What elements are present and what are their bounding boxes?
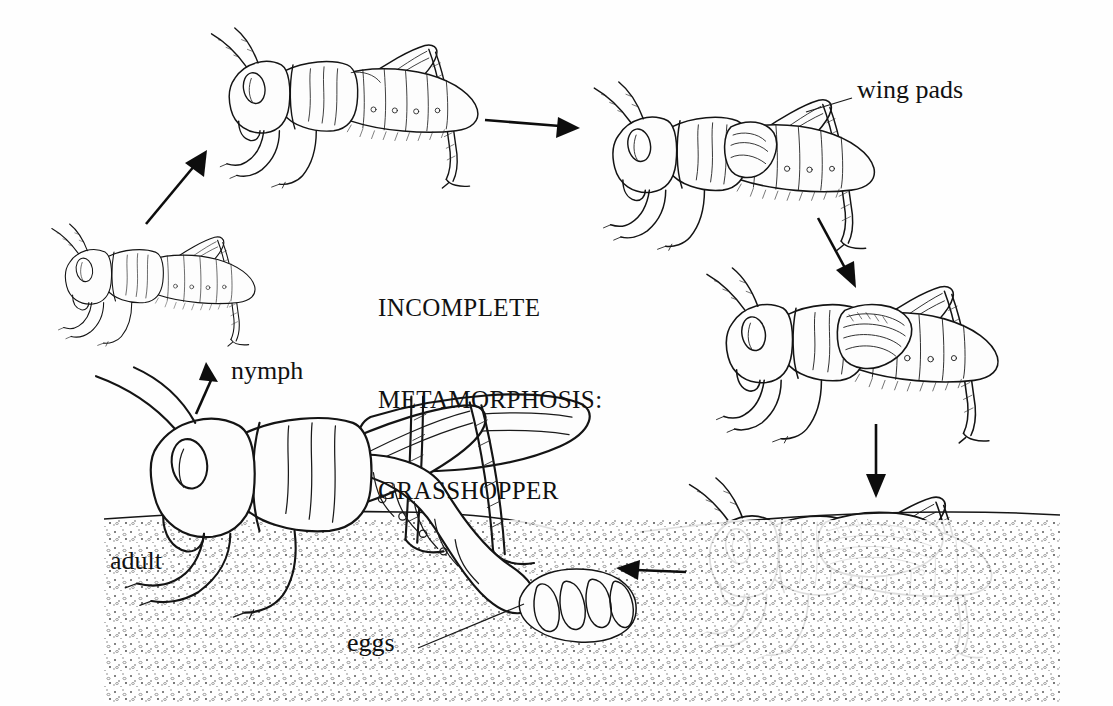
title-line-2: METAMORPHOSIS: xyxy=(378,385,602,416)
stage-4-nymph-illustration xyxy=(707,268,998,443)
arrow-nymph-to-stage2 xyxy=(146,150,207,224)
arrow-stage4-to-stage5 xyxy=(866,424,886,498)
stage-2-nymph-illustration xyxy=(212,28,478,188)
arrow-eggs-to-nymph xyxy=(196,362,218,414)
title-line-3: GRASSHOPPER xyxy=(378,476,602,507)
figure-canvas: INCOMPLETE METAMORPHOSIS: GRASSHOPPER wi… xyxy=(0,0,1113,706)
stage-1-early-nymph-illustration xyxy=(52,224,255,346)
label-eggs: eggs xyxy=(347,628,395,659)
label-wing-pads: wing pads xyxy=(857,75,963,106)
arrow-stage3-to-stage4 xyxy=(818,218,856,288)
label-nymph: nymph xyxy=(231,356,303,387)
arrow-stage2-to-stage3 xyxy=(485,117,580,138)
figure-title: INCOMPLETE METAMORPHOSIS: GRASSHOPPER xyxy=(378,232,602,568)
stage-3-nymph-wing-pads-illustration xyxy=(594,82,874,250)
title-line-1: INCOMPLETE xyxy=(378,293,602,324)
label-adult: adult xyxy=(110,546,162,577)
